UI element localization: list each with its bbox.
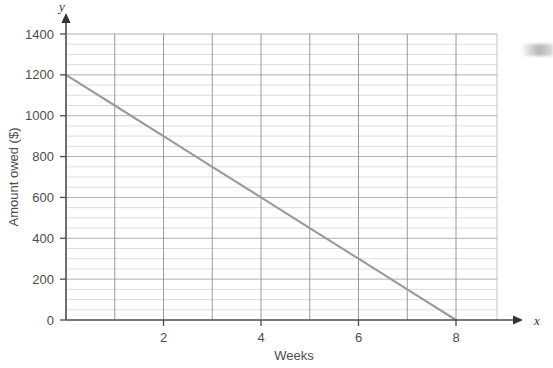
y-tick-label-1400: 1400 [25,27,54,42]
y-axis-title: Amount owed ($) [6,128,21,227]
x-tick-label-4: 4 [257,330,264,345]
line-chart: 1400 1200 1000 800 600 400 200 0 2 4 6 8… [0,0,553,368]
x-tick-label-6: 6 [355,330,362,345]
y-tick-label-400: 400 [32,231,54,246]
x-axis-title: Weeks [274,348,314,363]
y-axis-arrow-icon [61,13,70,23]
x-axis-symbol: x [533,313,540,328]
x-axis-ticks [164,320,457,326]
chart-container: 1400 1200 1000 800 600 400 200 0 2 4 6 8… [0,0,553,368]
x-axis-arrow-icon [513,315,523,324]
y-axis-symbol: y [57,0,65,14]
y-tick-label-0: 0 [47,313,54,328]
y-tick-label-1000: 1000 [25,108,54,123]
x-tick-label-8: 8 [452,330,459,345]
y-tick-label-200: 200 [32,272,54,287]
y-axis-ticks [60,34,66,320]
y-tick-label-800: 800 [32,149,54,164]
y-tick-label-600: 600 [32,190,54,205]
y-tick-label-1200: 1200 [25,67,54,82]
x-tick-label-2: 2 [160,330,167,345]
